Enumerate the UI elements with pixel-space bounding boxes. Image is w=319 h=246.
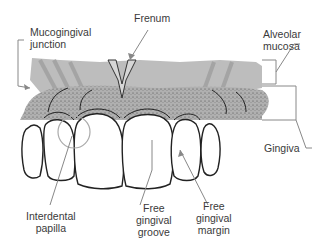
label-alveolar-mucosa: Alveolar mucosa: [263, 28, 301, 52]
teeth: [22, 114, 220, 189]
tooth-right-central: [122, 115, 173, 189]
label-free-gingival-groove: Free gingival groove: [136, 202, 172, 238]
label-mucogingival-junction: Mucogingival junction: [30, 26, 91, 50]
gingiva-anatomy-diagram: Mucogingival junction Frenum Alveolar mu…: [0, 0, 319, 246]
tooth-right-canine: [201, 124, 220, 176]
tooth-left-central: [74, 114, 124, 189]
label-frenum: Frenum: [134, 12, 170, 24]
mucogingival-bracket: [18, 40, 30, 88]
label-gingiva: Gingiva: [264, 142, 300, 154]
alveolar-mucosa-bracket: [262, 60, 276, 84]
label-interdental-papilla: Interdental papilla: [26, 210, 76, 234]
tooth-left-lateral: [44, 120, 75, 181]
label-free-gingival-margin: Free gingival margin: [196, 200, 232, 236]
tooth-left-canine: [22, 125, 43, 178]
frenum-leader: [132, 30, 148, 56]
tooth-right-lateral: [171, 120, 201, 181]
